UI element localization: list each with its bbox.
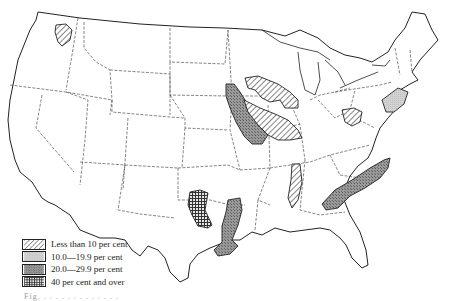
region-ne-washington	[55, 24, 72, 46]
grid-swatch-icon	[22, 276, 46, 287]
hatch-swatch-icon	[22, 239, 46, 250]
region-indiana-ohio	[342, 108, 362, 126]
light-stipple-swatch-icon	[22, 251, 46, 262]
map-legend: Less than 10 per cent 10.0—19.9 per cent…	[22, 238, 127, 288]
legend-item-under-10: Less than 10 per cent	[22, 238, 127, 251]
legend-item-10-19: 10.0—19.9 per cent	[22, 251, 127, 264]
legend-item-40-plus: 40 per cent and over	[22, 276, 127, 289]
legend-label: 20.0—29.9 per cent	[51, 264, 122, 274]
legend-label: 40 per cent and over	[51, 277, 124, 287]
figure-caption: Fig. . . . . . . . . . . . . .	[24, 292, 119, 301]
region-central-texas	[214, 198, 242, 256]
region-mississippi-delta	[288, 164, 302, 208]
legend-label: Less than 10 per cent	[51, 239, 127, 249]
region-western-oklahoma	[188, 190, 212, 228]
region-minnesota-iowa	[245, 76, 298, 108]
region-pennsylvania	[382, 88, 408, 112]
legend-label: 10.0—19.9 per cent	[51, 252, 122, 262]
region-southeast-piedmont	[322, 158, 390, 210]
legend-item-20-29: 20.0—29.9 per cent	[22, 263, 127, 276]
medium-stipple-swatch-icon	[22, 264, 46, 275]
great-lakes	[262, 30, 390, 95]
